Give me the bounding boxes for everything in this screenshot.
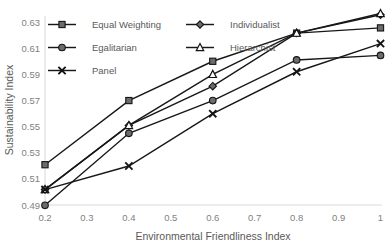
y-tick-label: 0.49 <box>22 200 41 211</box>
data-point-cross <box>377 40 384 47</box>
data-point-square <box>210 58 216 64</box>
data-point-cross <box>209 110 216 117</box>
data-point-cross <box>293 68 300 75</box>
x-tick-label: 1 <box>378 212 383 223</box>
legend-label: Hierarchist <box>230 42 276 53</box>
legend-label: Individualist <box>230 19 280 30</box>
data-point-diamond <box>209 82 216 89</box>
y-axis-title: Sustainability Index <box>3 64 15 155</box>
data-point-square <box>126 97 132 103</box>
legend-label: Panel <box>92 65 116 76</box>
x-tick-label: 0.4 <box>122 212 135 223</box>
x-tick-label: 0.6 <box>206 212 219 223</box>
data-point-circle <box>42 202 49 209</box>
y-axis-tick-labels: 0.63 0.61 0.59 0.57 0.55 0.53 0.51 0.49 <box>22 17 41 211</box>
legend-marker-circle <box>59 44 66 51</box>
data-point-triangle <box>209 70 216 77</box>
x-tick-label: 0.3 <box>80 212 93 223</box>
legend-item-equal-weighting[interactable]: Equal Weighting <box>48 19 161 30</box>
data-point-circle <box>293 57 300 64</box>
y-tick-label: 0.63 <box>22 17 41 28</box>
data-point-circle <box>209 97 216 104</box>
y-tick-label: 0.57 <box>22 95 41 106</box>
x-tick-label: 0.9 <box>332 212 345 223</box>
y-tick-label: 0.59 <box>22 69 41 80</box>
plot-area <box>41 9 384 208</box>
data-point-square <box>377 25 383 31</box>
legend-item-hierarchist[interactable]: Hierarchist <box>186 42 276 53</box>
legend-item-individualist[interactable]: Individualist <box>186 19 280 30</box>
x-tick-label: 0.8 <box>290 212 303 223</box>
data-point-square <box>42 162 48 168</box>
x-axis-tick-labels: 0.2 0.3 0.4 0.5 0.6 0.7 0.8 0.9 1 <box>38 212 383 223</box>
chart-svg: 0.63 0.61 0.59 0.57 0.55 0.53 0.51 0.49 … <box>0 0 392 251</box>
chart-legend: Equal WeightingIndividualistEgalitarianH… <box>48 19 280 76</box>
legend-item-egalitarian[interactable]: Egalitarian <box>48 42 137 53</box>
y-tick-label: 0.51 <box>22 173 41 184</box>
x-tick-label: 0.2 <box>38 212 51 223</box>
data-point-circle <box>126 130 133 137</box>
x-axis-title: Environmental Friendliness Index <box>135 230 291 242</box>
y-tick-label: 0.53 <box>22 147 41 158</box>
data-point-circle <box>377 52 384 59</box>
y-tick-label: 0.61 <box>22 43 41 54</box>
x-tick-label: 0.7 <box>248 212 261 223</box>
x-tick-label: 0.5 <box>164 212 177 223</box>
legend-item-panel[interactable]: Panel <box>48 65 116 76</box>
sustainability-index-line-chart: 0.63 0.61 0.59 0.57 0.55 0.53 0.51 0.49 … <box>0 0 392 251</box>
legend-marker-diamond <box>196 21 203 28</box>
y-tick-label: 0.55 <box>22 121 41 132</box>
legend-label: Equal Weighting <box>92 19 161 30</box>
legend-label: Egalitarian <box>92 42 137 53</box>
legend-marker-square <box>59 21 65 27</box>
